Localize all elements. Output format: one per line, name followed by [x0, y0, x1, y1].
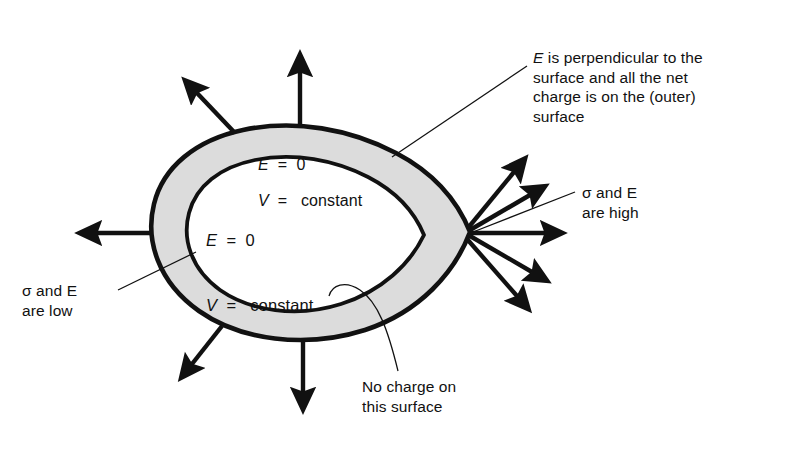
label-sigma-e-high: σ and E are high [582, 183, 752, 223]
formula-cavity-e-symbol: E [206, 231, 217, 249]
field-arrow-top-left [197, 93, 235, 133]
label-e-perpendicular: E is perpendicular to the surface and al… [533, 28, 773, 127]
formula-cavity-e-value: = 0 [217, 231, 255, 249]
formula-shell-e-value: = 0 [269, 156, 306, 173]
formula-cavity: E = 0 V = constant [206, 192, 313, 353]
label-sigma-e-low: σ and E are low [22, 281, 182, 321]
formula-shell-e-symbol: E [258, 156, 269, 173]
formula-cavity-v-value: = constant [217, 296, 313, 314]
label-no-charge-on-surface: No charge on this surface [362, 377, 532, 417]
leader-perpendicular [392, 66, 527, 157]
formula-shell-line-1: E = 0 [258, 156, 362, 174]
label-e-perpendicular-text: is perpendicular to the surface and all … [533, 49, 703, 125]
formula-cavity-line-1: E = 0 [206, 224, 313, 256]
label-e-perpendicular-symbol: E [533, 49, 543, 66]
formula-cavity-line-2: V = constant [206, 289, 313, 321]
formula-cavity-v-symbol: V [206, 296, 217, 314]
figure-root: E is perpendicular to the surface and al… [0, 0, 788, 449]
